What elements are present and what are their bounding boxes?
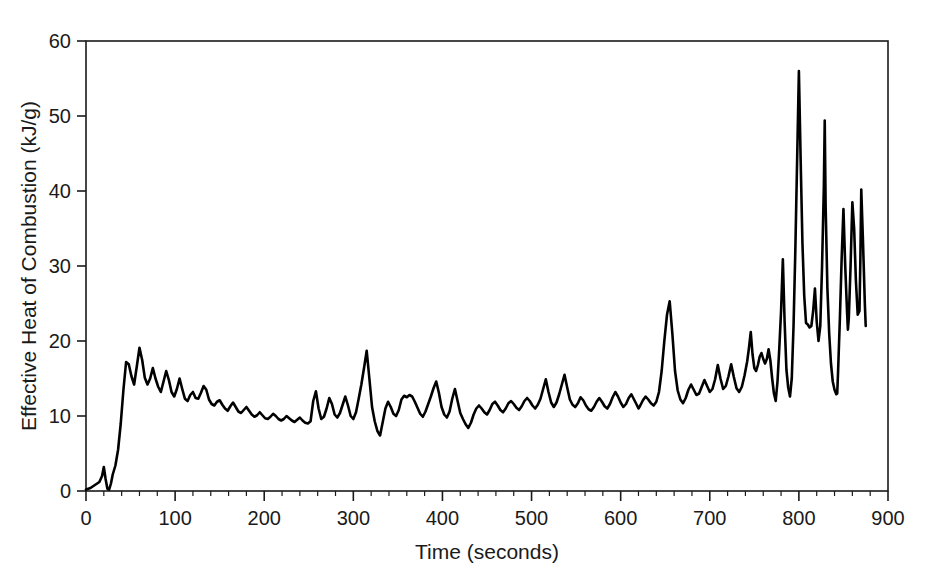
- y-tick-label: 50: [49, 105, 71, 127]
- x-tick-label: 200: [248, 507, 281, 529]
- x-axis-tick-labels: 0100200300400500600700800900: [80, 507, 904, 529]
- x-tick-label: 600: [604, 507, 637, 529]
- x-tick-label: 400: [426, 507, 459, 529]
- y-axis-ticks: [77, 41, 86, 491]
- x-tick-label: 800: [782, 507, 815, 529]
- y-tick-label: 60: [49, 30, 71, 52]
- x-tick-label: 900: [871, 507, 904, 529]
- y-tick-label: 20: [49, 330, 71, 352]
- x-tick-label: 500: [515, 507, 548, 529]
- y-axis-tick-labels: 0102030405060: [49, 30, 71, 502]
- chart-figure: 0102030405060 01002003004005006007008009…: [0, 0, 929, 581]
- x-axis-ticks: [86, 491, 888, 501]
- line-chart-canvas: 0102030405060 01002003004005006007008009…: [0, 0, 929, 581]
- x-tick-label: 300: [337, 507, 370, 529]
- y-tick-label: 30: [49, 255, 71, 277]
- y-axis-title: Effective Heat of Combustion (kJ/g): [17, 101, 40, 431]
- y-tick-label: 10: [49, 405, 71, 427]
- x-axis-title: Time (seconds): [415, 540, 559, 563]
- data-series-line: [86, 71, 866, 490]
- y-tick-label: 0: [60, 480, 71, 502]
- x-tick-label: 700: [693, 507, 726, 529]
- plot-frame: [86, 41, 888, 491]
- y-tick-label: 40: [49, 180, 71, 202]
- x-tick-label: 100: [158, 507, 191, 529]
- x-tick-label: 0: [80, 507, 91, 529]
